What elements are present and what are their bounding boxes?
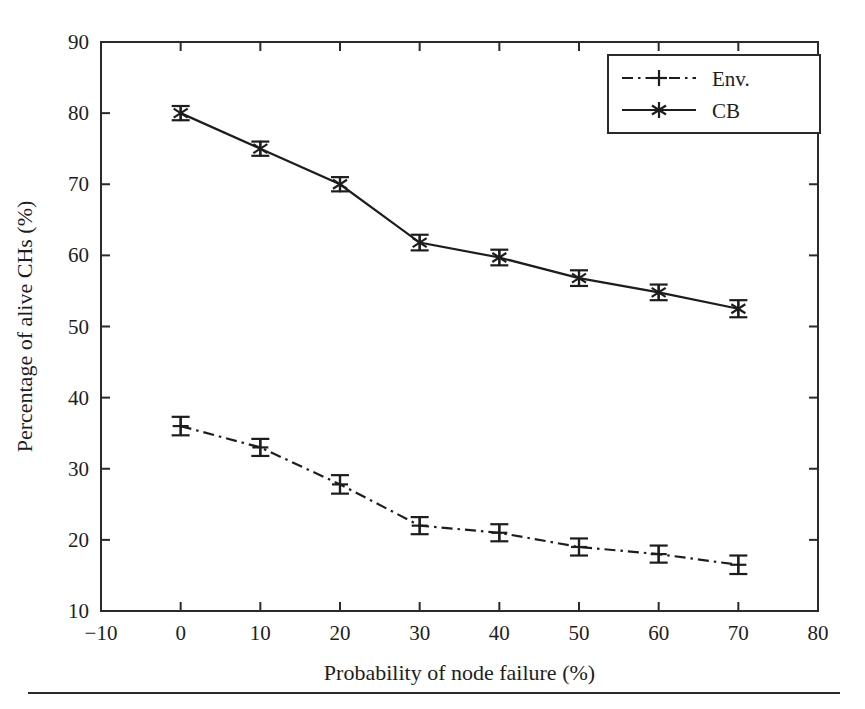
x-axis-tick-label: −10 xyxy=(85,621,118,645)
figure-container: −1001020304050607080102030405060708090Pr… xyxy=(0,0,865,709)
x-axis-tick-label: 70 xyxy=(728,621,749,645)
legend: Env.CB xyxy=(608,55,820,133)
data-point-marker xyxy=(253,141,267,157)
series-cb xyxy=(172,105,748,317)
data-point-marker xyxy=(730,557,746,573)
data-point-marker xyxy=(571,539,587,555)
line-chart: −1001020304050607080102030405060708090Pr… xyxy=(0,0,865,709)
y-axis-tick-label: 80 xyxy=(68,101,89,125)
legend-label: Env. xyxy=(712,67,750,91)
data-point-marker xyxy=(173,418,189,434)
data-point-marker xyxy=(651,546,667,562)
y-axis-tick-label: 60 xyxy=(68,243,89,267)
x-axis-tick-label: 10 xyxy=(250,621,271,645)
data-point-marker xyxy=(332,476,348,492)
legend-label: CB xyxy=(712,99,740,123)
x-axis-tick-label: 60 xyxy=(648,621,669,645)
y-axis-tick-label: 10 xyxy=(68,599,89,623)
y-axis-tick-label: 70 xyxy=(68,172,89,196)
x-axis-tick-label: 20 xyxy=(330,621,351,645)
series-env- xyxy=(172,417,748,574)
y-axis-tick-label: 30 xyxy=(68,457,89,481)
y-axis-tick-label: 90 xyxy=(68,30,89,54)
data-point-marker xyxy=(412,518,428,534)
x-axis-title: Probability of node failure (%) xyxy=(324,660,595,685)
y-axis-title: Percentage of alive CHs (%) xyxy=(12,201,37,453)
x-axis-tick-label: 0 xyxy=(175,621,186,645)
x-axis-tick-label: 30 xyxy=(409,621,430,645)
y-axis-tick-label: 20 xyxy=(68,528,89,552)
x-axis-tick-label: 40 xyxy=(489,621,510,645)
x-axis-tick-label: 80 xyxy=(808,621,829,645)
x-axis-tick-label: 50 xyxy=(569,621,590,645)
page-divider-rule xyxy=(28,692,840,694)
data-point-marker xyxy=(333,176,347,192)
y-axis-tick-label: 40 xyxy=(68,386,89,410)
data-point-marker xyxy=(174,105,188,121)
y-axis-tick-label: 50 xyxy=(68,315,89,339)
data-point-marker xyxy=(252,439,268,455)
data-point-marker xyxy=(491,525,507,541)
